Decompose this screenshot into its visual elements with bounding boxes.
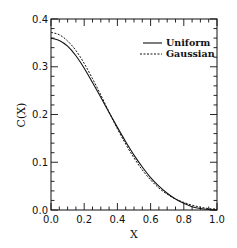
x-tick-label: 0.0 [43,214,59,225]
legend-label-gaussian: Gaussian [166,48,215,59]
x-tick-label: 1.0 [209,214,225,225]
x-tick-label: 0.2 [76,214,92,225]
x-tick-labels: 0.00.20.40.60.81.0 [43,214,225,225]
y-tick-labels: 0.00.10.20.30.4 [32,14,48,216]
x-axis-label: X [130,228,138,241]
y-axis-label: C(X) [15,103,28,128]
chart: 0.00.20.40.60.81.0 0.00.10.20.30.4 X C(X… [0,0,237,248]
x-tick-label: 0.4 [109,214,125,225]
data-series [51,32,217,210]
x-tick-label: 0.8 [176,214,192,225]
y-tick-label: 0.4 [32,14,48,25]
legend: Uniform Gaussian [140,37,215,59]
y-tick-label: 0.0 [32,205,48,216]
legend-label-uniform: Uniform [166,37,210,48]
series-line-uniform [51,38,217,210]
y-tick-label: 0.3 [32,61,48,72]
x-tick-label: 0.6 [143,214,159,225]
y-tick-label: 0.1 [32,157,48,168]
y-tick-label: 0.2 [32,109,48,120]
